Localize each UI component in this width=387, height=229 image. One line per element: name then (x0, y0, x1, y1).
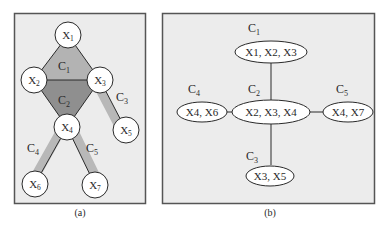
tree-node-c3: X3, X5 (246, 166, 294, 186)
node-x7: X7 (82, 172, 108, 198)
node-x2: X2 (21, 67, 47, 93)
tree-node-c3-contents: X3, X5 (254, 170, 287, 182)
tree-node-c5-contents: X4, X7 (332, 106, 365, 118)
tree-node-c1-contents: X1, X2, X3 (245, 46, 297, 58)
diagram-canvas: C1 C2 C3 C4 C5 X1 X2 X3 X4 X5 X6 (0, 0, 387, 229)
node-x4: X4 (54, 114, 80, 140)
node-x5: X5 (113, 117, 139, 143)
node-x3: X3 (87, 67, 113, 93)
tree-node-c4: X4, X6 (177, 102, 227, 122)
tree-node-c1: X1, X2, X3 (235, 41, 307, 63)
panel-b-caption: (b) (264, 207, 276, 219)
panel-a: C1 C2 C3 C4 C5 X1 X2 X3 X4 X5 X6 (15, 14, 146, 220)
tree-node-c4-contents: X4, X6 (186, 106, 219, 118)
panel-b: C1 X1, X2, X3 C2 X2, X3, X4 C4 X4, X6 C5… (163, 14, 375, 220)
node-x6: X6 (22, 171, 48, 197)
node-x1: X1 (55, 22, 81, 48)
tree-node-c2-contents: X2, X3, X4 (245, 106, 297, 118)
panel-a-caption: (a) (74, 207, 85, 219)
tree-node-c5: X4, X7 (323, 102, 373, 122)
tree-node-c2: X2, X3, X4 (232, 100, 310, 124)
